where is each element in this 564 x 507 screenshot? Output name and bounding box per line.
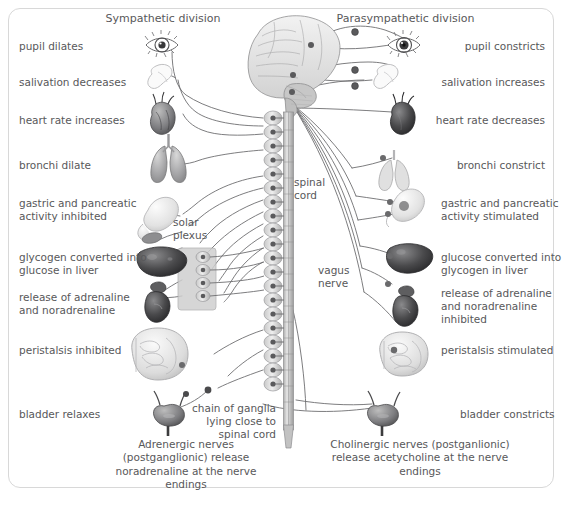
- label-left-salivation: salivation decreases: [19, 76, 126, 89]
- liver-icon-right: [386, 244, 432, 274]
- label-solar-plexus: solar plexus: [173, 216, 207, 242]
- label-spinal-cord: spinal cord: [294, 176, 325, 202]
- label-left-liver: glycogen converted into glucose in liver: [19, 251, 147, 277]
- label-left-gastric: gastric and pancreatic activity inhibite…: [19, 197, 136, 223]
- intestines-icon-right: [380, 332, 428, 376]
- adrenal-kidney-icon-left: [145, 282, 170, 322]
- label-left-adrenal: release of adrenaline and noradrenaline: [19, 291, 130, 317]
- brain-icon: [248, 16, 340, 118]
- label-right-gastric: gastric and pancreatic activity stimulat…: [441, 197, 558, 223]
- ganglion-chain-icon: [264, 111, 284, 391]
- postganglionic-dots: [179, 362, 211, 397]
- lungs-icon-left: [151, 134, 186, 183]
- label-right-liver: glucose converted into glycogen in liver: [441, 251, 561, 277]
- spinal-cord-icon: [284, 112, 294, 448]
- bladder-icon-right: [367, 391, 400, 436]
- label-right-bladder: bladder constricts: [460, 408, 555, 421]
- label-left-bronchi: bronchi dilate: [19, 159, 91, 172]
- stomach-pancreas-icon-right: [386, 189, 424, 227]
- title-sympathetic: Sympathetic division: [88, 12, 238, 25]
- heart-icon-left: [150, 92, 175, 134]
- label-left-bladder: bladder relaxes: [19, 408, 100, 421]
- label-left-peristalsis: peristalsis inhibited: [19, 344, 121, 357]
- label-left-heart: heart rate increases: [19, 114, 125, 127]
- eye-icon-left: [145, 30, 178, 57]
- label-right-bronchi: bronchi constrict: [345, 159, 545, 172]
- salivary-gland-icon-left: [148, 64, 172, 88]
- label-left-pupil: pupil dilates: [19, 40, 83, 53]
- diagram-canvas: Sympathetic division Parasympathetic div…: [0, 0, 564, 507]
- label-right-pupil: pupil constricts: [345, 40, 545, 53]
- caption-cholinergic: Cholinergic nerves (postganlionic) relea…: [330, 438, 510, 478]
- label-vagus-nerve: vagus nerve: [318, 264, 349, 290]
- caption-adrenergic: Adrenergic nerves (postganglionic) relea…: [96, 438, 276, 492]
- adrenal-kidney-icon-right: [393, 286, 418, 326]
- intestines-icon-left: [132, 328, 188, 380]
- label-right-adrenal: release of adrenaline and noradrenaline …: [441, 287, 552, 327]
- label-right-heart: heart rate decreases: [345, 114, 545, 127]
- title-parasympathetic: Parasympathetic division: [318, 12, 493, 25]
- label-chain-of-ganglia: chain of ganglia lying close to spinal c…: [168, 402, 276, 442]
- label-right-salivation: salivation increases: [345, 76, 545, 89]
- label-right-peristalsis: peristalsis stimulated: [441, 344, 553, 357]
